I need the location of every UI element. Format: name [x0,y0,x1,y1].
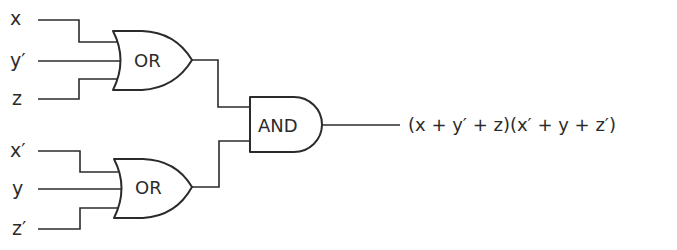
input-label-y-prime: y′ [10,49,26,71]
wire-z-prime-to-bottom-or [38,208,118,229]
top-or-gate-label: OR [134,50,161,71]
wire-z-to-top-or [38,79,118,99]
and-gate: AND [250,97,322,152]
input-label-z: z [12,87,22,109]
logic-circuit-diagram: x y′ z OR x′ y z′ OR AND (x + y′ + z)(x′… [0,0,677,250]
wire-top-or-to-and [192,60,250,107]
input-label-x: x [10,7,21,29]
and-gate-label: AND [258,115,298,136]
top-or-gate: OR [113,31,192,90]
input-label-y: y [12,177,23,199]
wire-bottom-or-to-and [192,141,250,187]
top-or-inputs: x y′ z [10,7,121,109]
input-label-z-prime: z′ [12,217,26,239]
bottom-or-gate-label: OR [135,177,162,198]
wire-x-prime-to-bottom-or [38,151,118,172]
wire-x-to-top-or [38,20,118,42]
input-label-x-prime: x′ [10,139,26,161]
output-expression: (x + y′ + z)(x′ + y + z′) [408,114,616,135]
bottom-or-inputs: x′ y z′ [10,139,121,239]
bottom-or-gate: OR [114,159,192,218]
